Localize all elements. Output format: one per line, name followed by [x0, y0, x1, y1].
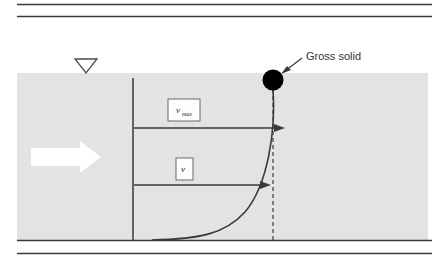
v-label-box: v [176, 158, 193, 180]
vmax-subscript: max [182, 111, 192, 117]
figure-canvas: v max v Gross solid [0, 0, 445, 266]
hydraulics-diagram: v max v Gross solid [0, 0, 445, 266]
water-level-triangle-icon [75, 59, 97, 73]
gross-solid-circle-icon [263, 70, 284, 91]
vmax-symbol: v [176, 105, 180, 115]
callout-leader-line-icon [281, 58, 302, 74]
v-symbol: v [181, 164, 185, 174]
top-rules [17, 5, 432, 17]
vmax-label-box: v max [168, 99, 200, 121]
gross-solid-label: Gross solid [306, 50, 361, 62]
